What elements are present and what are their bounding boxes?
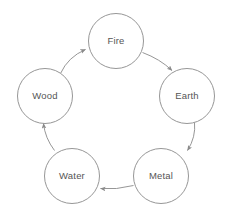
node-label-wood: Wood	[32, 90, 57, 101]
five-elements-cycle-diagram: Fire Earth Metal Water Wood	[0, 0, 232, 216]
node-metal[interactable]: Metal	[134, 149, 189, 204]
node-water[interactable]: Water	[45, 149, 100, 204]
node-fire[interactable]: Fire	[89, 14, 144, 69]
node-label-water: Water	[59, 170, 85, 181]
edge-metal-to-water	[101, 186, 134, 189]
edge-wood-to-fire	[61, 50, 86, 74]
edge-water-to-wood	[44, 124, 55, 151]
cycle-diagram-canvas: Fire Earth Metal Water Wood	[0, 0, 232, 216]
node-label-fire: Fire	[107, 35, 124, 46]
node-earth[interactable]: Earth	[160, 69, 215, 124]
node-label-earth: Earth	[175, 90, 199, 101]
nodes-layer: Fire Earth Metal Water Wood	[18, 14, 215, 204]
edge-earth-to-metal	[188, 123, 195, 151]
node-label-metal: Metal	[149, 170, 173, 181]
node-wood[interactable]: Wood	[18, 69, 73, 124]
edge-fire-to-earth	[143, 53, 173, 71]
